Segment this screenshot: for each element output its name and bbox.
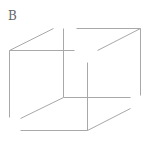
edge-bottom-right-diagonal	[88, 109, 131, 131]
edge-top-right-diagonal	[98, 29, 141, 51]
cube-diagram	[0, 0, 148, 141]
cube-edges	[10, 29, 141, 131]
edge-bottom-left-diagonal	[21, 98, 64, 119]
edge-top-left-diagonal	[10, 29, 54, 51]
